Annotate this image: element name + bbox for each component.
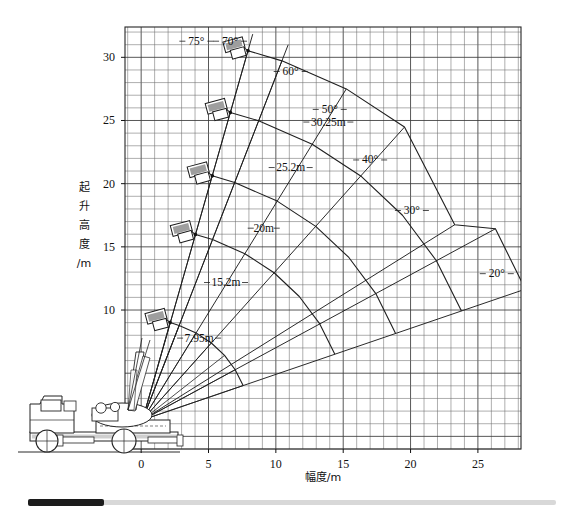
- y-axis-title-char: 高: [79, 218, 90, 232]
- boom-length-label: 25.2m: [276, 161, 305, 173]
- y-tick-label: 15: [103, 240, 115, 254]
- scrollbar-thumb[interactable]: [28, 499, 104, 506]
- boom-fan-line: [143, 370, 236, 420]
- boom-angle-ray: [143, 225, 455, 420]
- x-tick-label: 5: [206, 457, 212, 471]
- boom-fan-line: [143, 333, 197, 420]
- truck-mounted-crane-illustration: [18, 36, 251, 453]
- y-axis-title-char: 起: [79, 181, 90, 194]
- horizontal-scrollbar[interactable]: [0, 495, 564, 509]
- boom-length-label: 15.2m: [211, 276, 240, 288]
- x-tick-label: 20: [405, 457, 417, 471]
- angle-label: 40°: [362, 153, 379, 165]
- truck-cab: [30, 396, 76, 433]
- angle-label: 30°: [404, 204, 421, 216]
- angle-label: 60°: [283, 65, 300, 77]
- scrollbar-track[interactable]: [28, 500, 556, 505]
- crane-boom-outlines: [128, 338, 150, 411]
- y-tick-label: 10: [103, 303, 115, 317]
- boom-angle-rays: [143, 34, 526, 420]
- chart-canvas: 05101520251015202530 75°70°60°50°40°30°2…: [0, 0, 564, 509]
- crane-superstructure: [92, 402, 152, 427]
- angle-label: 75°: [188, 35, 205, 47]
- axis-ticks: 05101520251015202530: [103, 50, 484, 471]
- y-tick-label: 25: [103, 113, 115, 127]
- y-tick-label: 30: [103, 50, 115, 64]
- boom-length-arc: [195, 234, 334, 354]
- boom-length-arc: [230, 112, 461, 311]
- angle-label: 70°: [222, 35, 239, 47]
- boom-length-label: 20m: [254, 222, 275, 234]
- boom-length-label: 30.25m: [311, 116, 346, 128]
- angle-annotations: 75°70°60°50°40°30°20°: [179, 35, 513, 279]
- crane-working-range-diagram: 05101520251015202530 75°70°60°50°40°30°2…: [0, 0, 564, 509]
- cab-window: [41, 400, 61, 411]
- angle-label: 20°: [489, 267, 506, 279]
- boom-length-label: 7.95m: [185, 332, 214, 344]
- x-tick-label: 0: [138, 457, 144, 471]
- x-axis-title: 幅度/m: [305, 470, 341, 484]
- x-tick-label: 15: [337, 457, 349, 471]
- y-axis-title-char: /m: [77, 257, 91, 270]
- boom-sheave: [96, 403, 106, 413]
- y-axis-title-char: 升: [79, 200, 90, 213]
- x-tick-label: 25: [472, 457, 484, 471]
- y-tick-label: 20: [103, 177, 115, 191]
- x-tick-label: 10: [270, 457, 282, 471]
- angle-label: 50°: [322, 103, 339, 115]
- y-axis-title-char: 度: [79, 237, 90, 251]
- y-axis-title: 起升高度/m: [77, 181, 91, 270]
- boom-length-annotations: 7.95m15.2m20m25.2m30.25m: [177, 116, 353, 344]
